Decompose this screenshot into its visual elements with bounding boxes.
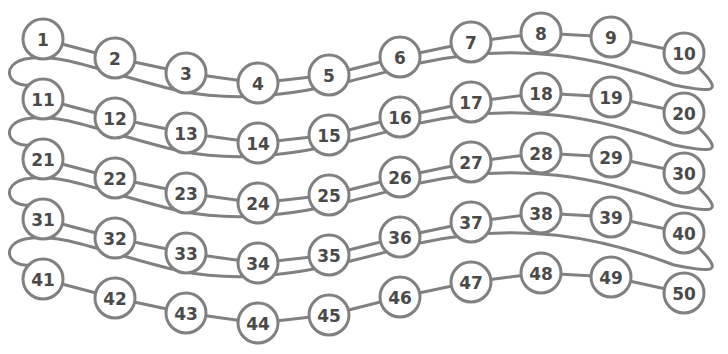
node-label: 25 <box>317 186 341 206</box>
number-node: 43 <box>166 293 206 333</box>
number-node: 34 <box>238 243 278 283</box>
row-connector <box>43 273 684 323</box>
node-label: 20 <box>672 104 696 124</box>
node-label: 2 <box>109 49 121 69</box>
number-node: 13 <box>166 113 206 153</box>
node-label: 34 <box>246 254 270 274</box>
node-label: 15 <box>317 126 341 146</box>
node-label: 24 <box>246 194 270 214</box>
number-node: 20 <box>664 93 704 133</box>
number-node: 22 <box>95 158 135 198</box>
node-label: 10 <box>672 44 696 64</box>
number-node: 31 <box>23 199 63 239</box>
node-label: 46 <box>388 288 412 308</box>
number-node: 12 <box>95 98 135 138</box>
number-node: 14 <box>238 123 278 163</box>
node-label: 1 <box>37 30 49 50</box>
row-connector <box>43 93 684 143</box>
node-label: 31 <box>31 210 55 230</box>
node-label: 19 <box>599 88 623 108</box>
node-label: 37 <box>459 213 483 233</box>
number-node: 19 <box>591 77 631 117</box>
number-node: 27 <box>451 142 491 182</box>
number-node: 8 <box>521 13 561 53</box>
number-node: 32 <box>95 218 135 258</box>
node-label: 12 <box>103 109 127 129</box>
number-node: 21 <box>23 139 63 179</box>
number-node: 29 <box>591 137 631 177</box>
node-label: 43 <box>174 304 198 324</box>
node-label: 22 <box>103 169 127 189</box>
number-node: 17 <box>451 82 491 122</box>
node-label: 39 <box>599 208 623 228</box>
node-label: 50 <box>672 284 696 304</box>
node-label: 35 <box>317 246 341 266</box>
node-label: 32 <box>103 229 127 249</box>
number-node: 9 <box>591 17 631 57</box>
number-node: 45 <box>309 295 349 335</box>
node-label: 49 <box>599 268 623 288</box>
number-node: 28 <box>521 133 561 173</box>
number-node: 23 <box>166 173 206 213</box>
node-label: 23 <box>174 184 198 204</box>
node-label: 17 <box>459 93 483 113</box>
number-node: 36 <box>380 217 420 257</box>
number-node: 41 <box>23 259 63 299</box>
number-node: 7 <box>451 22 491 62</box>
row-connector <box>43 213 684 263</box>
number-node: 18 <box>521 73 561 113</box>
node-label: 44 <box>246 314 270 334</box>
node-label: 13 <box>174 124 198 144</box>
number-node: 44 <box>238 303 278 343</box>
number-node: 42 <box>95 278 135 318</box>
number-node: 30 <box>664 153 704 193</box>
number-node: 33 <box>166 233 206 273</box>
number-node: 11 <box>23 79 63 119</box>
number-node: 16 <box>380 97 420 137</box>
node-label: 38 <box>529 204 553 224</box>
node-label: 28 <box>529 144 553 164</box>
node-label: 45 <box>317 306 341 326</box>
node-label: 8 <box>535 24 547 44</box>
number-node: 39 <box>591 197 631 237</box>
number-node: 3 <box>166 53 206 93</box>
node-label: 41 <box>31 270 55 290</box>
node-label: 18 <box>529 84 553 104</box>
number-node: 40 <box>664 213 704 253</box>
node-label: 47 <box>459 273 483 293</box>
node-label: 42 <box>103 289 127 309</box>
number-node: 46 <box>380 277 420 317</box>
number-node: 49 <box>591 257 631 297</box>
number-node: 37 <box>451 202 491 242</box>
number-path-diagram: 1234567891011121314151617181920212223242… <box>0 0 728 354</box>
node-label: 9 <box>605 28 617 48</box>
number-node: 50 <box>664 273 704 313</box>
node-label: 33 <box>174 244 198 264</box>
row-connector <box>43 33 684 83</box>
number-node: 24 <box>238 183 278 223</box>
node-label: 48 <box>529 264 553 284</box>
number-node: 48 <box>521 253 561 293</box>
node-label: 26 <box>388 168 412 188</box>
node-label: 11 <box>31 90 55 110</box>
number-node: 4 <box>238 63 278 103</box>
number-node: 15 <box>309 115 349 155</box>
node-label: 40 <box>672 224 696 244</box>
node-label: 30 <box>672 164 696 184</box>
node-label: 14 <box>246 134 270 154</box>
number-node: 1 <box>23 19 63 59</box>
number-node: 5 <box>309 55 349 95</box>
node-label: 6 <box>394 48 406 68</box>
number-path-canvas: 1234567891011121314151617181920212223242… <box>0 0 728 354</box>
node-label: 16 <box>388 108 412 128</box>
node-label: 4 <box>252 74 264 94</box>
node-label: 36 <box>388 228 412 248</box>
number-node: 38 <box>521 193 561 233</box>
number-node: 47 <box>451 262 491 302</box>
number-node: 10 <box>664 33 704 73</box>
number-node: 26 <box>380 157 420 197</box>
node-label: 21 <box>31 150 55 170</box>
number-node: 6 <box>380 37 420 77</box>
number-node: 35 <box>309 235 349 275</box>
node-label: 29 <box>599 148 623 168</box>
